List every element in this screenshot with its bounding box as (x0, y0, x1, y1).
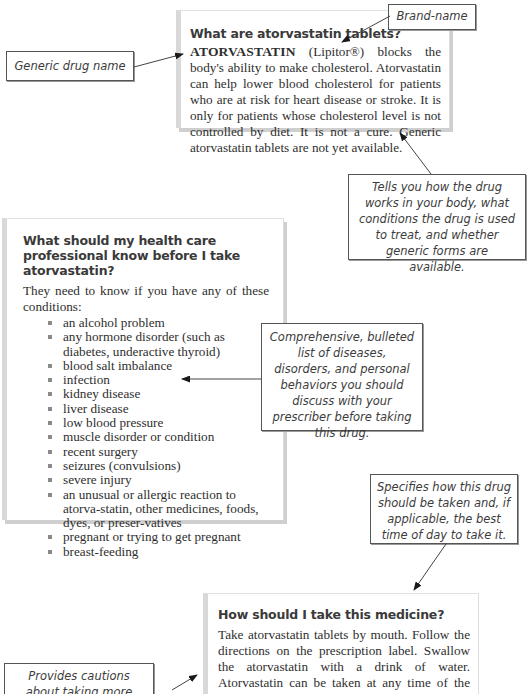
arrow-cautions (172, 675, 197, 690)
list-item: low blood pressure (23, 416, 277, 430)
callout-text: Brand-name (396, 9, 467, 23)
list-item: liver disease (23, 402, 277, 416)
callout-conditions-list: Comprehensive, bulleted list of diseases… (261, 323, 423, 431)
list-item: seizures (convulsions) (23, 459, 277, 473)
panel-before-taking: What should my health care professional … (2, 218, 284, 520)
arrow-how-to-take (414, 544, 446, 590)
callout-text: Tells you how the drug works in your bod… (359, 180, 515, 274)
callout-generic-name: Generic drug name (6, 51, 134, 81)
callout-how-to-take: Specifies how this drug should be taken … (370, 474, 518, 544)
list-item: pregnant or trying to get pregnant (23, 530, 277, 544)
conditions-intro: They need to know if you have any of the… (23, 283, 277, 315)
list-item: an alcohol problem (23, 316, 277, 330)
panel-title: How should I take this medicine? (218, 607, 470, 622)
list-item: an unusual or allergic reaction to atorv… (23, 488, 277, 531)
panel-body: Take atorvastatin tablets by mouth. Foll… (218, 627, 470, 694)
callout-how-it-works: Tells you how the drug works in your bod… (348, 174, 526, 260)
panel-body: ATORVASTATIN (Lipitor®) blocks the body'… (190, 44, 441, 156)
callout-text: Provides cautions about taking more ofte… (26, 669, 133, 694)
callout-brand-name: Brand-name (388, 4, 476, 30)
generic-drug-name: ATORVASTATIN (190, 44, 296, 59)
list-item: breast-feeding (23, 545, 277, 559)
panel-title: What should my health care professional … (23, 233, 243, 278)
list-item: blood salt imbalance (23, 359, 277, 373)
callout-text: Specifies how this drug should be taken … (377, 480, 511, 542)
panel-how-to-take: How should I take this medicine? Take at… (203, 593, 479, 694)
list-item: kidney disease (23, 387, 277, 401)
description-text: blocks the body's ability to make choles… (190, 44, 441, 155)
list-item: recent surgery (23, 445, 277, 459)
list-item: muscle disorder or condition (23, 430, 277, 444)
callout-text: Comprehensive, bulleted list of diseases… (270, 330, 414, 440)
list-item: any hormone disorder (such as diabetes, … (23, 330, 277, 359)
callout-cautions: Provides cautions about taking more ofte… (4, 663, 154, 694)
callout-text: Generic drug name (14, 59, 125, 73)
conditions-list: an alcohol problem any hormone disorder … (23, 316, 277, 559)
list-item: infection (23, 373, 277, 387)
brand-name: (Lipitor®) (309, 44, 364, 59)
list-item: severe injury (23, 473, 277, 487)
